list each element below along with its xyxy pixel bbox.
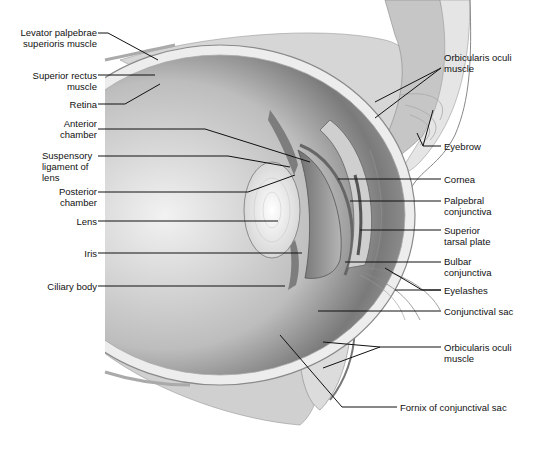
label-bulbar-conjunctiva: Bulbar conjunctiva	[444, 256, 492, 278]
label-retina: Retina	[70, 99, 97, 110]
label-lens: Lens	[76, 216, 97, 227]
label-superior-rectus: Superior rectus muscle	[33, 70, 97, 92]
label-conjunctival-sac: Conjunctival sac	[444, 306, 513, 317]
label-superior-tarsal-plate: Superior tarsal plate	[444, 225, 490, 247]
label-palpebral-conjunctiva: Palpebral conjunctiva	[444, 195, 492, 217]
label-posterior-chamber: Posterior chamber	[59, 186, 97, 208]
label-iris: Iris	[84, 248, 97, 259]
label-eyelashes: Eyelashes	[444, 285, 488, 296]
label-cornea: Cornea	[444, 174, 475, 185]
label-anterior-chamber: Anterior chamber	[60, 118, 97, 140]
label-eyebrow: Eyebrow	[444, 141, 481, 152]
label-ciliary-body: Ciliary body	[47, 281, 97, 292]
label-fornix-conjunctival-sac: Fornix of conjunctival sac	[400, 402, 507, 413]
label-orbicularis-oculi-upper: Orbicularis oculi muscle	[444, 52, 512, 74]
label-suspensory-ligament: Suspensory ligament of lens	[42, 150, 92, 183]
label-orbicularis-oculi-lower: Orbicularis oculi muscle	[444, 342, 512, 364]
label-levator-palpebrae: Levator palpebrae superioris muscle	[20, 27, 97, 49]
eye-anatomy-diagram: Levator palpebrae superioris muscle Supe…	[0, 0, 538, 457]
